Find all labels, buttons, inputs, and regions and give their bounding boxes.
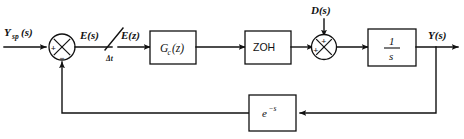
disturbance-junction: + + [312, 35, 337, 60]
setpoint-subscript: sp [11, 32, 19, 41]
setpoint-input-group: Y sp (s) [4, 26, 46, 47]
block-diagram-svg: Y sp (s) + − E(s) Δt E(z) [0, 0, 464, 139]
feedback-block-rect [249, 95, 296, 131]
disturbance-junction-sign-top: + [321, 36, 326, 46]
hold-label: ZOH [253, 41, 275, 53]
error-s-label: E(s) [79, 29, 99, 42]
disturbance-junction-sign-left: + [313, 45, 318, 55]
feedback-label-exponent: −s [269, 104, 277, 113]
error-signal-group: E(s) [75, 29, 112, 47]
error-z-label: E(z) [120, 29, 140, 42]
output-group: Y(s) [416, 29, 458, 47]
feedback-wire-left [62, 62, 249, 113]
controller-label-argument: (z) [172, 42, 184, 55]
feedback-label: e [262, 107, 267, 119]
plant-numerator: 1 [389, 35, 395, 47]
plant-block[interactable]: 1 s [368, 29, 416, 66]
disturbance-label: D(s) [310, 4, 331, 17]
block-diagram-canvas: Y sp (s) + − E(s) Δt E(z) [0, 0, 464, 139]
error-z-signal-group: E(z) [118, 29, 150, 47]
setpoint-argument: (s) [21, 26, 33, 39]
error-junction-sign-left: + [51, 43, 56, 53]
error-junction: + − [49, 34, 75, 63]
plant-denominator: s [389, 50, 393, 62]
setpoint-label: Y [4, 26, 12, 38]
feedback-block[interactable]: e −s [249, 95, 296, 131]
disturbance-input-group: D(s) [310, 4, 331, 36]
error-junction-sign-bottom: − [59, 53, 64, 63]
output-label: Y(s) [428, 29, 446, 42]
hold-block[interactable]: ZOH [245, 31, 291, 64]
controller-block[interactable]: G c (z) [150, 31, 196, 64]
sampler-period-label: Δt [105, 54, 114, 63]
